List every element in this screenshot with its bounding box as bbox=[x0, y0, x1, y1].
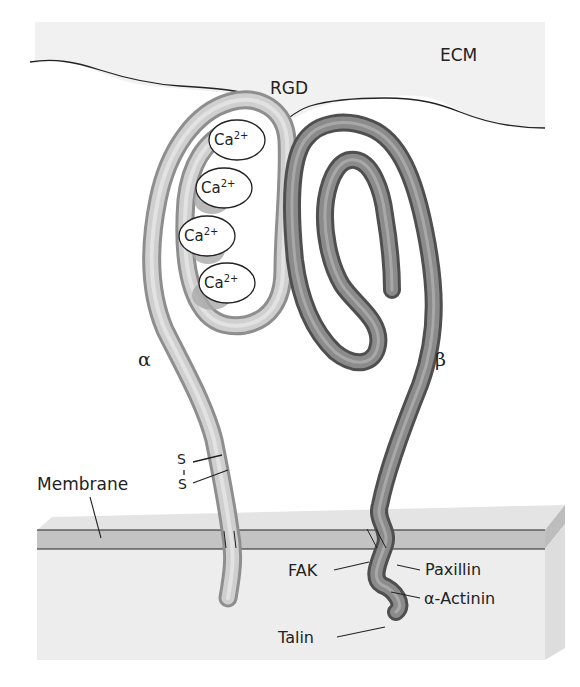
fak-label: FAK bbox=[288, 563, 317, 579]
alpha-label: α bbox=[138, 350, 151, 369]
ecm-label: ECM bbox=[440, 47, 477, 64]
paxillin-label: Paxillin bbox=[425, 562, 481, 578]
integrin-diagram bbox=[0, 0, 580, 687]
beta-label: β bbox=[435, 350, 446, 369]
actinin-label: α-Actinin bbox=[424, 591, 495, 607]
calcium-base: Ca bbox=[204, 274, 224, 292]
calcium-label-2: Ca2+ bbox=[201, 179, 235, 196]
calcium-base: Ca bbox=[201, 179, 221, 197]
calcium-charge: 2+ bbox=[234, 130, 249, 141]
calcium-base: Ca bbox=[214, 131, 234, 149]
sulfur-label-2: S bbox=[178, 477, 187, 491]
calcium-label-1: Ca2+ bbox=[214, 131, 248, 148]
rgd-label: RGD bbox=[270, 80, 308, 97]
calcium-label-4: Ca2+ bbox=[204, 274, 238, 291]
calcium-charge: 2+ bbox=[221, 178, 236, 189]
talin-label: Talin bbox=[278, 630, 314, 646]
membrane-label: Membrane bbox=[37, 476, 128, 493]
calcium-charge: 2+ bbox=[204, 226, 219, 237]
calcium-charge: 2+ bbox=[224, 273, 239, 284]
sulfur-label-1: S bbox=[177, 452, 186, 466]
calcium-label-3: Ca2+ bbox=[184, 227, 218, 244]
calcium-base: Ca bbox=[184, 227, 204, 245]
